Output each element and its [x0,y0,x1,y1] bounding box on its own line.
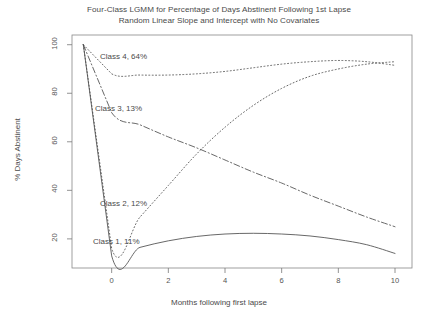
class-2-annotation: Class 2, 12% [100,199,147,208]
y-tick-label: 100 [50,30,59,56]
class-3-annotation: Class 3, 13% [95,104,142,113]
x-tick-label: 4 [212,276,238,285]
x-tick-label: 2 [155,276,181,285]
y-tick-label: 80 [50,79,59,105]
series-line-class-2 [83,45,395,258]
y-tick-marks [67,45,72,239]
y-axis-title: % Days Abstinent [13,100,22,200]
x-axis-title: Months following first lapse [0,298,438,307]
y-tick-label: 60 [50,127,59,153]
x-tick-label: 10 [382,276,408,285]
chart-figure: Four-Class LGMM for Percentage of Days A… [0,0,438,325]
class-4-annotation: Class 4, 64% [100,52,147,61]
data-series-layer [83,45,395,270]
y-tick-label: 40 [50,176,59,202]
class-1-annotation: Class 1, 11% [93,237,140,246]
x-tick-label: 6 [269,276,295,285]
series-line-class-1 [83,45,395,270]
x-tick-marks [112,268,395,273]
y-tick-label: 20 [50,224,59,250]
x-tick-label: 0 [99,276,125,285]
x-tick-label: 8 [325,276,351,285]
